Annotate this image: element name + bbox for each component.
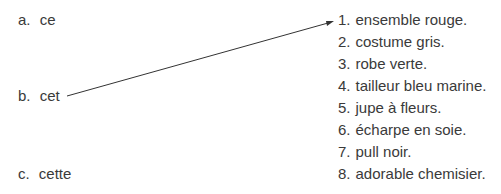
- item-number: 8.: [338, 165, 351, 182]
- arrowhead-icon: [326, 21, 334, 26]
- item-text: écharpe en soie.: [356, 121, 467, 138]
- right-items-list: 1.ensemble rouge. 2.costume gris. 3.robe…: [338, 11, 486, 187]
- list-item: 7.pull noir.: [338, 143, 486, 165]
- item-text: ensemble rouge.: [356, 11, 468, 28]
- item-number: 2.: [338, 33, 351, 50]
- item-text: jupe à fleurs.: [356, 99, 442, 116]
- item-number: 3.: [338, 55, 351, 72]
- item-number: 5.: [338, 99, 351, 116]
- item-text: tailleur bleu marine.: [356, 77, 487, 94]
- list-item: 4.tailleur bleu marine.: [338, 77, 486, 99]
- item-number: 6.: [338, 121, 351, 138]
- list-item: 3.robe verte.: [338, 55, 486, 77]
- item-number: 7.: [338, 143, 351, 160]
- item-number: 4.: [338, 77, 351, 94]
- list-item: 8.adorable chemisier.: [338, 165, 486, 187]
- list-item: 6.écharpe en soie.: [338, 121, 486, 143]
- item-text: adorable chemisier.: [356, 165, 486, 182]
- list-item: 2.costume gris.: [338, 33, 486, 55]
- item-number: 1.: [338, 11, 351, 28]
- list-item: 1.ensemble rouge.: [338, 11, 486, 33]
- item-text: robe verte.: [356, 55, 428, 72]
- item-text: pull noir.: [356, 143, 412, 160]
- item-text: costume gris.: [356, 33, 445, 50]
- list-item: 5.jupe à fleurs.: [338, 99, 486, 121]
